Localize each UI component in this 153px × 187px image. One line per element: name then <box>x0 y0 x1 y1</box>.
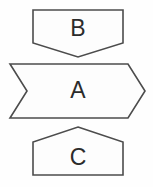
diagram-svg: B A C <box>0 0 153 187</box>
shape-label-b: B <box>70 15 85 41</box>
shape-label-a: A <box>70 77 86 103</box>
diagram-canvas: B A C <box>0 0 153 187</box>
shape-label-c: C <box>70 144 87 170</box>
